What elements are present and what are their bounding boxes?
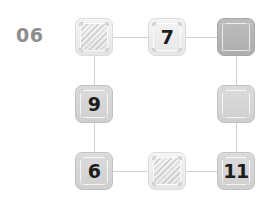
puzzle-tile[interactable]: 9 xyxy=(75,85,113,123)
tile-corner-notch-icon xyxy=(105,48,109,52)
tile-connector xyxy=(236,56,237,85)
tile-corner-notch-icon xyxy=(247,182,251,186)
puzzle-tile[interactable] xyxy=(217,85,255,123)
tile-corner-notch-icon xyxy=(178,22,182,26)
tile-number-label: 6 xyxy=(88,162,101,181)
puzzle-tile[interactable]: 6 xyxy=(75,152,113,190)
tile-corner-notch-icon xyxy=(152,182,156,186)
panel-number-label: 06 xyxy=(16,24,43,46)
puzzle-tile[interactable]: 7 xyxy=(148,18,186,56)
tile-number-label: 11 xyxy=(223,162,248,181)
tile-corner-notch-icon xyxy=(247,48,251,52)
tile-number-label: 7 xyxy=(161,28,174,47)
tile-corner-notch-icon xyxy=(247,115,251,119)
puzzle-panel: 06 79611 xyxy=(0,0,266,201)
tile-corner-notch-icon xyxy=(247,22,251,26)
tile-number-label: 9 xyxy=(88,95,101,114)
tile-corner-notch-icon xyxy=(105,22,109,26)
tile-corner-notch-icon xyxy=(178,156,182,160)
tile-corner-notch-icon xyxy=(221,115,225,119)
tile-corner-notch-icon xyxy=(178,182,182,186)
puzzle-tile[interactable] xyxy=(75,18,113,56)
tile-inset-frame xyxy=(153,157,181,185)
tile-connector xyxy=(113,37,148,38)
tile-connector xyxy=(113,171,148,172)
tile-corner-notch-icon xyxy=(152,22,156,26)
tile-corner-notch-icon xyxy=(79,182,83,186)
tile-corner-notch-icon xyxy=(178,48,182,52)
tile-corner-notch-icon xyxy=(105,89,109,93)
tile-corner-notch-icon xyxy=(221,182,225,186)
tile-corner-notch-icon xyxy=(79,48,83,52)
puzzle-tile[interactable]: 11 xyxy=(217,152,255,190)
tile-connector xyxy=(186,37,217,38)
tile-corner-notch-icon xyxy=(105,182,109,186)
tile-corner-notch-icon xyxy=(152,48,156,52)
tile-connector xyxy=(236,123,237,152)
tile-corner-notch-icon xyxy=(105,115,109,119)
puzzle-tile[interactable] xyxy=(148,152,186,190)
tile-inset-frame xyxy=(222,90,250,118)
tile-connector xyxy=(94,123,95,152)
tile-corner-notch-icon xyxy=(105,156,109,160)
tile-connector xyxy=(186,171,217,172)
tile-corner-notch-icon xyxy=(247,89,251,93)
tile-corner-notch-icon xyxy=(79,156,83,160)
tile-inset-frame xyxy=(80,23,108,51)
tile-inset-frame xyxy=(222,23,250,51)
tile-corner-notch-icon xyxy=(152,156,156,160)
puzzle-tile[interactable] xyxy=(217,18,255,56)
tile-corner-notch-icon xyxy=(221,89,225,93)
tile-corner-notch-icon xyxy=(79,115,83,119)
tile-corner-notch-icon xyxy=(221,22,225,26)
tile-connector xyxy=(94,56,95,85)
tile-corner-notch-icon xyxy=(79,89,83,93)
tile-corner-notch-icon xyxy=(221,48,225,52)
tile-corner-notch-icon xyxy=(79,22,83,26)
